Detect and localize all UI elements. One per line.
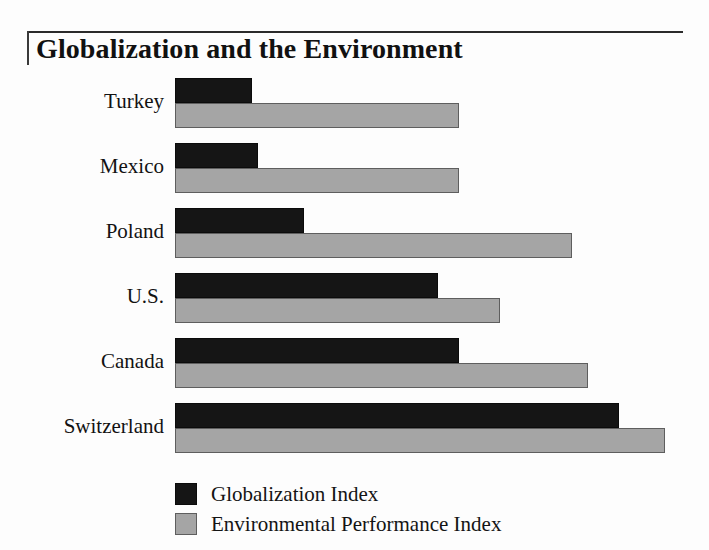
legend-item: Environmental Performance Index	[175, 509, 675, 539]
legend-label-globalization: Globalization Index	[211, 482, 378, 507]
title-bracket-tick	[27, 31, 29, 65]
bar-pair	[175, 78, 459, 128]
bar-switzerland-epi	[175, 428, 665, 453]
bar-mexico-globalization	[175, 143, 258, 168]
bar-us-globalization	[175, 273, 438, 298]
chart-category-group: Turkey	[0, 78, 709, 128]
chart-figure: Globalization and the Environment Turkey…	[0, 0, 709, 550]
plot-area: TurkeyMexicoPolandU.S.CanadaSwitzerland	[0, 78, 709, 470]
bar-poland-globalization	[175, 208, 304, 233]
bar-mexico-epi	[175, 168, 459, 193]
legend-item: Globalization Index	[175, 479, 675, 509]
category-label-switzerland: Switzerland	[0, 414, 164, 439]
bar-pair	[175, 403, 665, 453]
bar-pair	[175, 338, 588, 388]
bar-canada-epi	[175, 363, 588, 388]
chart-category-group: Mexico	[0, 143, 709, 193]
bar-pair	[175, 273, 500, 323]
chart-category-group: Poland	[0, 208, 709, 258]
chart-category-group: Switzerland	[0, 403, 709, 453]
chart-category-group: Canada	[0, 338, 709, 388]
category-label-us: U.S.	[0, 284, 164, 309]
bar-pair	[175, 143, 459, 193]
legend-label-epi: Environmental Performance Index	[211, 512, 501, 537]
bar-canada-globalization	[175, 338, 459, 363]
chart-title: Globalization and the Environment	[36, 31, 463, 67]
category-label-mexico: Mexico	[0, 154, 164, 179]
chart-legend: Globalization IndexEnvironmental Perform…	[175, 479, 675, 539]
bar-turkey-epi	[175, 103, 459, 128]
legend-swatch-epi	[175, 513, 197, 535]
legend-swatch-globalization	[175, 483, 197, 505]
bar-poland-epi	[175, 233, 572, 258]
category-label-poland: Poland	[0, 219, 164, 244]
category-label-turkey: Turkey	[0, 89, 164, 114]
chart-category-group: U.S.	[0, 273, 709, 323]
category-label-canada: Canada	[0, 349, 164, 374]
bar-switzerland-globalization	[175, 403, 619, 428]
bar-us-epi	[175, 298, 500, 323]
bar-pair	[175, 208, 572, 258]
bar-turkey-globalization	[175, 78, 252, 103]
